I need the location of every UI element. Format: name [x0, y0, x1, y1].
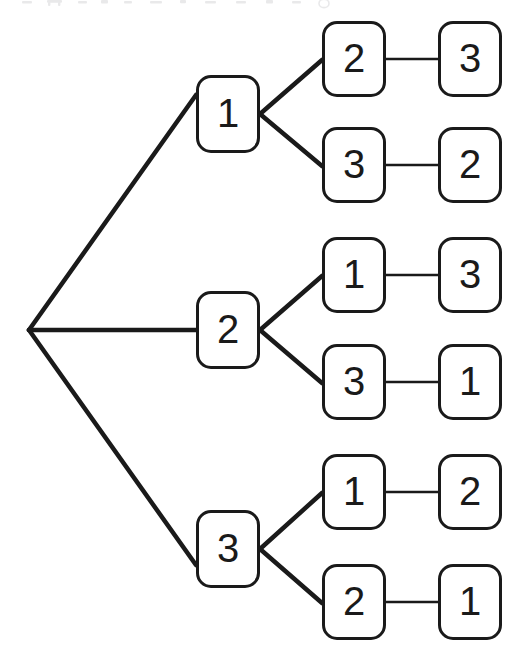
node-label: 3 — [343, 361, 365, 401]
node-l3-3-value-3[interactable]: 3 — [438, 237, 502, 313]
node-label: 1 — [343, 254, 365, 294]
node-label: 1 — [459, 581, 481, 621]
node-l2-4-value-3[interactable]: 3 — [322, 344, 386, 420]
node-l2-5-value-1[interactable]: 1 — [322, 454, 386, 530]
node-layer: 123231312323121 — [0, 0, 527, 671]
node-label: 3 — [343, 144, 365, 184]
node-l3-4-value-1[interactable]: 1 — [438, 344, 502, 420]
node-l3-1-value-3[interactable]: 3 — [438, 21, 502, 97]
node-label: 2 — [217, 309, 239, 349]
node-l2-6-value-2[interactable]: 2 — [322, 564, 386, 640]
root-vertex — [26, 327, 32, 333]
node-label: 3 — [459, 38, 481, 78]
node-l1-3-value-3[interactable]: 3 — [196, 510, 260, 588]
node-label: 3 — [217, 528, 239, 568]
node-l2-1-value-2[interactable]: 2 — [322, 21, 386, 97]
node-l3-2-value-2[interactable]: 2 — [438, 127, 502, 203]
node-l2-2-value-3[interactable]: 3 — [322, 127, 386, 203]
node-l2-3-value-1[interactable]: 1 — [322, 237, 386, 313]
node-label: 1 — [459, 361, 481, 401]
node-label: 2 — [459, 144, 481, 184]
node-l3-6-value-1[interactable]: 1 — [438, 564, 502, 640]
node-label: 1 — [343, 471, 365, 511]
node-l1-2-value-2[interactable]: 2 — [196, 291, 260, 369]
node-l1-1-value-1[interactable]: 1 — [196, 75, 260, 153]
node-label: 3 — [459, 254, 481, 294]
node-label: 2 — [343, 38, 365, 78]
node-label: 2 — [459, 471, 481, 511]
diagram-canvas: 123231312323121 — [0, 0, 527, 671]
node-label: 2 — [343, 581, 365, 621]
node-l3-5-value-2[interactable]: 2 — [438, 454, 502, 530]
node-label: 1 — [217, 93, 239, 133]
